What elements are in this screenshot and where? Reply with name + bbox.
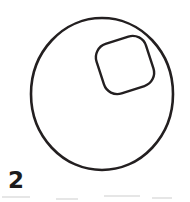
figure-number-label: 2 (8, 166, 34, 194)
figure-container: 2 (0, 0, 190, 202)
